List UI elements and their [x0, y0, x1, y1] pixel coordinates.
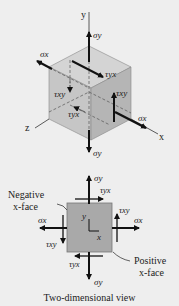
plane-tau-yx-bottom-label: τyx: [69, 259, 80, 269]
z-axis-line: [35, 119, 49, 128]
cube-tau-xy-left-label: τxy: [54, 89, 65, 99]
plane-x-axis-label: x: [96, 232, 101, 242]
negative-face-leader: [57, 204, 67, 210]
plane-tau-xy-right-label: τxy: [119, 205, 130, 215]
plane-tau-xy-left-label: τxy: [46, 239, 57, 249]
plane-stress-element: y x σy τyx σy τyx σx τxy σx τxy Negative…: [8, 173, 167, 287]
sigma-x-left-arrow: [37, 61, 52, 69]
cube-x-axis-label: x: [159, 131, 164, 142]
cube-z-axis-label: z: [25, 122, 30, 133]
negative-face-label-line1: Negative: [8, 189, 45, 200]
plane-sigma-x-right-label: σx: [134, 215, 142, 225]
plane-sigma-x-left-label: σx: [38, 215, 46, 225]
cube-sigma-x-left-label: σx: [40, 49, 48, 59]
stress-cube: y z x σy σy σx σx τyx τxy τxy τyx: [25, 9, 164, 158]
plane-sigma-y-bottom-label: σy: [94, 277, 102, 287]
cube-y-axis-label: y: [81, 9, 86, 20]
cube-tau-yx-top-label: τyx: [105, 69, 116, 79]
cube-sigma-x-right-label: σx: [138, 113, 146, 123]
stress-element-diagram: y z x σy σy σx σx τyx τxy τxy τyx: [0, 0, 179, 306]
plane-sigma-y-top-label: σy: [94, 173, 102, 183]
cube-tau-yx-front-label: τyx: [68, 109, 79, 119]
plane-y-axis-label: y: [81, 211, 86, 221]
cube-sigma-y-top-label: σy: [93, 30, 101, 40]
plane-tau-yx-top-label: τyx: [100, 185, 111, 195]
positive-face-leader: [113, 252, 130, 261]
positive-face-label-line1: Positive: [134, 255, 167, 266]
negative-face-label-line2: x-face: [13, 201, 39, 212]
cube-sigma-y-bottom-label: σy: [93, 148, 101, 158]
figure-caption: Two-dimensional view: [0, 292, 179, 303]
positive-face-label-line2: x-face: [139, 267, 165, 278]
cube-tau-xy-right-label: τxy: [116, 88, 127, 98]
